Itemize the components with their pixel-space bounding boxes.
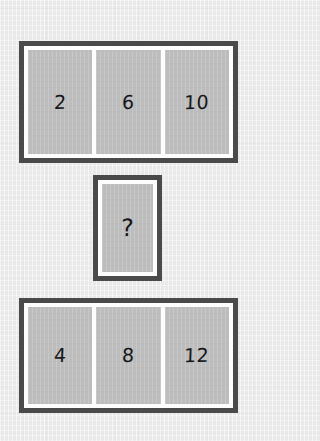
- cell-top-1-value: 2: [53, 92, 66, 111]
- middle-row-cells-container: ?: [98, 180, 157, 276]
- cell-bottom-1-value: 4: [53, 346, 66, 365]
- cell-top-3-value: 10: [184, 92, 210, 111]
- bottom-row-cells-container: 4 8 12: [24, 303, 233, 408]
- cell-top-3[interactable]: 10: [165, 50, 229, 154]
- middle-unknown-panel: ?: [93, 175, 162, 281]
- cell-bottom-3-value: 12: [184, 346, 210, 365]
- cell-bottom-2[interactable]: 8: [96, 307, 160, 404]
- cell-middle-unknown[interactable]: ?: [102, 184, 153, 272]
- top-number-row-panel: 2 6 10: [19, 41, 238, 163]
- cell-top-2[interactable]: 6: [96, 50, 160, 154]
- cell-bottom-3[interactable]: 12: [165, 307, 229, 404]
- cell-top-2-value: 6: [122, 92, 135, 111]
- cell-bottom-1[interactable]: 4: [28, 307, 92, 404]
- question-mark-icon: ?: [121, 216, 134, 240]
- cell-top-1[interactable]: 2: [28, 50, 92, 154]
- bottom-number-row-panel: 4 8 12: [19, 298, 238, 413]
- top-row-cells-container: 2 6 10: [24, 46, 233, 158]
- puzzle-stage: 2 6 10 ? 4 8 12: [0, 0, 254, 441]
- cell-bottom-2-value: 8: [122, 346, 135, 365]
